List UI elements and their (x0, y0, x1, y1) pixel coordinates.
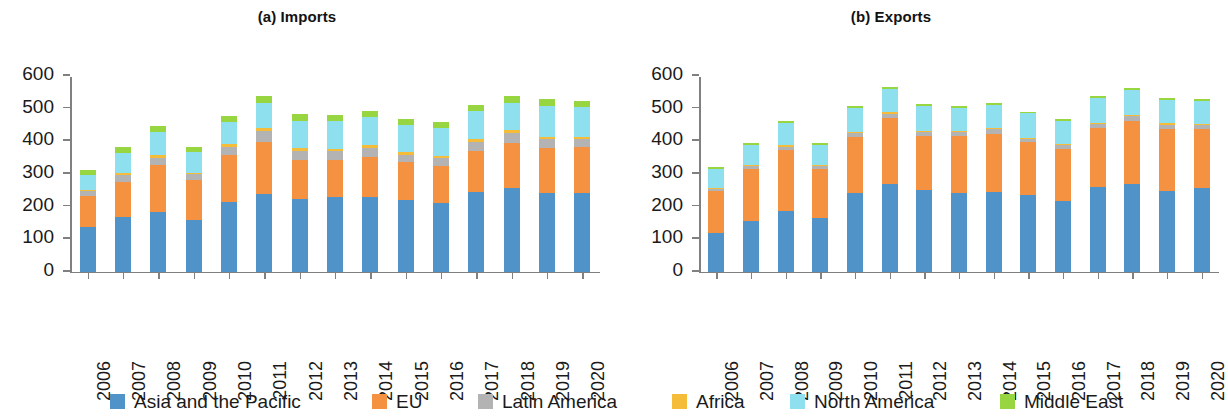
bar-segment (221, 155, 237, 202)
bar-2007 (743, 143, 759, 272)
y-axis-tick-label: 400 (651, 129, 683, 148)
x-axis-tick (123, 273, 124, 279)
bar-segment (1124, 184, 1140, 272)
bar-2018 (504, 96, 520, 271)
bar-segment (468, 151, 484, 192)
bar-segment (778, 123, 794, 146)
bar-segment (539, 139, 555, 148)
y-axis-tick: 0 (63, 270, 70, 272)
x-axis-tick (1202, 273, 1203, 279)
legend-swatch-icon (110, 394, 125, 409)
x-axis-tick (300, 273, 301, 279)
bar-segment (916, 136, 932, 190)
bar-2013 (951, 106, 967, 272)
y-axis-tick-label: 200 (22, 195, 54, 214)
bar-segment (362, 157, 378, 197)
bar-segment (80, 196, 96, 227)
bar-segment (574, 193, 590, 271)
bar-2008 (150, 126, 166, 271)
bar-segment (1055, 149, 1071, 201)
x-axis-tick (716, 273, 717, 279)
bar-segment (708, 169, 724, 187)
x-axis-tick (1167, 273, 1168, 279)
bar-segment (951, 108, 967, 131)
bar-2018 (1124, 88, 1140, 272)
legend-swatch-icon (478, 394, 493, 409)
bar-segment (574, 147, 590, 193)
bar-segment (1194, 129, 1210, 188)
bar-segment (150, 212, 166, 272)
y-axis-tick: 500 (692, 107, 699, 109)
x-axis-tick (1098, 273, 1099, 279)
bar-segment (398, 155, 414, 163)
legend-item-middle_east[interactable]: Middle East (1000, 392, 1123, 411)
y-axis-tick: 300 (692, 172, 699, 174)
bar-segment (362, 148, 378, 157)
x-axis-tick (959, 273, 960, 279)
bar-2020 (574, 101, 590, 271)
bar-segment (1124, 121, 1140, 184)
legend-item-north_america[interactable]: North America (790, 392, 934, 411)
bar-2010 (847, 106, 863, 271)
x-axis-tick (406, 273, 407, 279)
legend-item-asia_pacific[interactable]: Asia and the Pacific (110, 392, 301, 411)
y-axis-line-exports (699, 77, 701, 273)
bar-segment (327, 197, 343, 271)
chart-panels: (a) Imports 0100200300400500600200620072… (0, 0, 1189, 365)
bar-segment (468, 111, 484, 139)
bar-segment (292, 121, 308, 149)
y-axis-tick: 0 (692, 270, 699, 272)
bar-segment (986, 192, 1002, 272)
bar-segment (398, 200, 414, 272)
bar-segment (1090, 128, 1106, 187)
bar-segment (812, 169, 828, 218)
bar-segment (539, 106, 555, 137)
legend-swatch-icon (372, 394, 387, 409)
y-axis-tick: 500 (63, 107, 70, 109)
x-axis-tick (547, 273, 548, 279)
bar-segment (256, 142, 272, 194)
legend-label: EU (396, 392, 422, 411)
bar-2008 (778, 121, 794, 272)
bar-segment (398, 162, 414, 200)
bar-segment (80, 227, 96, 271)
bar-segment (433, 166, 449, 203)
bar-2020 (1194, 99, 1210, 271)
legend-swatch-icon (1000, 394, 1015, 409)
bar-2019 (539, 99, 555, 271)
bar-segment (574, 107, 590, 136)
bar-2007 (115, 147, 131, 271)
x-axis-tick (582, 273, 583, 279)
bar-2017 (468, 105, 484, 271)
y-axis-tick-label: 0 (672, 260, 683, 279)
y-axis-tick: 400 (692, 139, 699, 141)
bar-segment (292, 160, 308, 199)
legend-label: Asia and the Pacific (134, 392, 301, 411)
bar-2014 (986, 103, 1002, 272)
legend-item-latin_america[interactable]: Latin America (478, 392, 617, 411)
y-axis-tick-label: 500 (651, 97, 683, 116)
legend-label: Middle East (1024, 392, 1123, 411)
bar-segment (504, 188, 520, 272)
bar-segment (468, 142, 484, 151)
plot-area-imports: 0100200300400500600200620072008200920102… (70, 77, 600, 273)
bar-2009 (812, 143, 828, 271)
bar-2016 (433, 122, 449, 271)
bar-segment (504, 133, 520, 143)
bar-segment (539, 193, 555, 272)
legend-item-africa[interactable]: Africa (672, 392, 745, 411)
y-axis-tick-label: 100 (651, 227, 683, 246)
y-axis-tick: 300 (63, 172, 70, 174)
legend-label: Latin America (502, 392, 617, 411)
legend-item-eu[interactable]: EU (372, 392, 422, 411)
bar-2012 (292, 114, 308, 271)
y-axis-tick-label: 100 (22, 227, 54, 246)
x-axis-tick (335, 273, 336, 279)
y-axis-tick: 600 (692, 74, 699, 76)
bar-segment (256, 194, 272, 272)
bar-segment (327, 160, 343, 198)
bar-segment (916, 106, 932, 131)
bar-segment (743, 221, 759, 272)
chart-legend: Asia and the PacificEULatin AmericaAfric… (0, 386, 1189, 419)
